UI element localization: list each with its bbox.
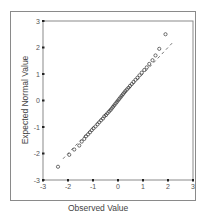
data-point bbox=[164, 33, 167, 36]
y-tick-label: -2 bbox=[34, 150, 40, 157]
y-tick-label: 2 bbox=[36, 44, 40, 51]
x-tick-label: 2 bbox=[166, 183, 170, 190]
data-point bbox=[143, 68, 146, 71]
x-tick-label: -2 bbox=[65, 183, 71, 190]
x-tick-label: -1 bbox=[90, 183, 96, 190]
data-point bbox=[148, 62, 151, 65]
x-tick-mark bbox=[42, 179, 44, 182]
y-axis-title: Expected Normal Value bbox=[20, 55, 30, 144]
data-point bbox=[151, 59, 154, 62]
y-tick-mark bbox=[42, 153, 45, 155]
y-tick-mark bbox=[42, 100, 45, 102]
y-tick-mark bbox=[42, 73, 45, 75]
data-point bbox=[80, 140, 83, 143]
y-tick-mark bbox=[42, 47, 45, 49]
x-tick-mark bbox=[192, 179, 194, 182]
data-point bbox=[73, 148, 76, 151]
data-point bbox=[158, 47, 161, 50]
qq-plot: 3210-1-2-3 -3-2-10123 Observed Value Exp… bbox=[0, 0, 214, 220]
y-tick-label: -1 bbox=[34, 124, 40, 131]
x-axis: -3-2-10123 bbox=[40, 179, 195, 190]
x-tick-label: 0 bbox=[116, 183, 120, 190]
reference-line bbox=[63, 42, 173, 159]
x-tick-mark bbox=[167, 179, 169, 182]
x-tick-label: -3 bbox=[40, 183, 46, 190]
y-tick-label: 3 bbox=[36, 18, 40, 25]
data-point bbox=[154, 54, 157, 57]
x-axis-title: Observed Value bbox=[68, 203, 129, 213]
data-point bbox=[140, 71, 143, 74]
x-tick-mark bbox=[92, 179, 94, 182]
data-point bbox=[78, 144, 81, 147]
data-point bbox=[84, 135, 87, 138]
y-tick-mark bbox=[42, 20, 45, 22]
x-tick-mark bbox=[67, 179, 69, 182]
x-tick-label: 3 bbox=[191, 183, 195, 190]
y-tick-label: 1 bbox=[36, 71, 40, 78]
data-point bbox=[145, 66, 148, 69]
x-tick-label: 1 bbox=[141, 183, 145, 190]
x-tick-mark bbox=[142, 179, 144, 182]
data-point bbox=[56, 165, 59, 168]
x-tick-mark bbox=[117, 179, 119, 182]
data-point bbox=[68, 153, 71, 156]
data-point bbox=[96, 123, 99, 126]
y-tick-mark bbox=[42, 126, 45, 128]
data-point bbox=[88, 131, 91, 134]
y-tick-label: 0 bbox=[36, 97, 40, 104]
